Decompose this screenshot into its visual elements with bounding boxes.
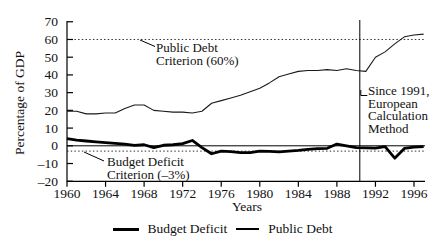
public-debt-line-sample-icon xyxy=(236,228,259,229)
x-tick-label: 1992 xyxy=(357,186,393,201)
y-tick-label: –10 xyxy=(24,156,58,171)
annotation-public-debt-criterion: Public Debt Criterion (60%) xyxy=(156,42,239,67)
x-tick-label: 1976 xyxy=(203,186,239,201)
y-tick-label: 70 xyxy=(24,14,58,29)
pointer-1991-note xyxy=(361,90,368,96)
x-tick-label: 1980 xyxy=(242,186,278,201)
x-tick-label: 1996 xyxy=(396,186,432,201)
y-tick-label: 60 xyxy=(24,32,58,47)
annotation-text: Criterion (60%) xyxy=(156,55,239,68)
x-tick-label: 1964 xyxy=(88,186,124,201)
pointer-60-criterion xyxy=(140,40,155,47)
x-tick-label: 1968 xyxy=(126,186,162,201)
x-axis-title: Years xyxy=(216,199,278,215)
chart-figure: Percentage of GDP Years Public Debt Crit… xyxy=(0,0,445,251)
legend: Budget Deficit Public Debt xyxy=(0,221,445,237)
annotation-since-1991-method: Since 1991, European Calculation Method xyxy=(368,85,429,135)
pointer-minus3-criterion xyxy=(84,152,104,161)
annotation-text: Method xyxy=(368,123,429,136)
x-tick-label: 1984 xyxy=(280,186,316,201)
y-tick-label: 30 xyxy=(24,85,58,100)
y-tick-label: 40 xyxy=(24,67,58,82)
legend-label-budget-deficit: Budget Deficit xyxy=(148,221,228,237)
budget-deficit-line-sample-icon xyxy=(113,228,139,231)
y-tick-label: 50 xyxy=(24,50,58,65)
x-tick-label: 1988 xyxy=(319,186,355,201)
legend-label-public-debt: Public Debt xyxy=(268,221,332,237)
x-tick-label: 1960 xyxy=(49,186,85,201)
annotation-budget-deficit-criterion: Budget Deficit Criterion (–3%) xyxy=(107,156,190,181)
annotation-text: Criterion (–3%) xyxy=(107,169,190,182)
y-tick-label: 20 xyxy=(24,103,58,118)
x-tick-label: 1972 xyxy=(165,186,201,201)
y-tick-label: 10 xyxy=(24,121,58,136)
y-tick-label: 0 xyxy=(24,138,58,153)
